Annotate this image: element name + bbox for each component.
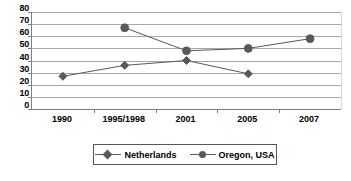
y-tickmark [28, 61, 32, 62]
legend-item[interactable]: Netherlands [95, 150, 176, 160]
diamond-marker-icon [59, 72, 67, 80]
y-tick-label: 80 [4, 4, 29, 13]
circle-marker-icon [306, 35, 314, 43]
y-tickmark [28, 73, 32, 74]
legend-sample [190, 150, 216, 160]
series-line [125, 28, 310, 51]
series-line [63, 61, 248, 77]
x-tickmark [94, 109, 95, 113]
y-tickmark [28, 36, 32, 37]
circle-marker-icon [183, 47, 191, 55]
y-tick-label: 50 [4, 40, 29, 49]
x-tickmark [217, 109, 218, 113]
diamond-marker-icon [183, 57, 191, 65]
y-tick-label: 60 [4, 28, 29, 37]
y-tickmark [28, 85, 32, 86]
line-chart: 01020304050607080 19901995/1998200120052… [0, 0, 351, 181]
y-tick-label: 30 [4, 65, 29, 74]
legend-label: Oregon, USA [219, 150, 275, 160]
caption-sliver [4, 171, 304, 181]
chart-legend: NetherlandsOregon, USA [93, 144, 277, 165]
x-tick-label: 1990 [52, 114, 72, 124]
y-tickmark [28, 24, 32, 25]
circle-marker-icon [244, 44, 252, 52]
y-tickmark [28, 12, 32, 13]
series-layer [32, 12, 341, 109]
y-axis: 01020304050607080 [4, 8, 29, 112]
x-axis: 19901995/1998200120052007 [31, 114, 341, 126]
plot-area [31, 12, 341, 110]
y-tickmark [28, 48, 32, 49]
diamond-marker-icon [244, 70, 252, 78]
y-tickmark [28, 97, 32, 98]
legend-item[interactable]: Oregon, USA [190, 150, 275, 160]
plot-right-edge [341, 12, 342, 109]
x-tickmark [156, 109, 157, 113]
circle-marker-icon [121, 24, 129, 32]
y-tick-label: 10 [4, 89, 29, 98]
y-tick-label: 40 [4, 53, 29, 62]
legend-sample [95, 150, 121, 160]
x-tick-label: 1995/1998 [102, 114, 145, 124]
x-tickmark [279, 109, 280, 113]
plot-wrapper: 01020304050607080 19901995/1998200120052… [0, 0, 351, 126]
x-tick-label: 2001 [175, 114, 195, 124]
legend-label: Netherlands [124, 150, 176, 160]
y-tick-label: 70 [4, 16, 29, 25]
y-tick-label: 0 [4, 101, 29, 110]
y-tick-label: 20 [4, 77, 29, 86]
diamond-marker-icon [103, 149, 113, 159]
y-tickmark [28, 109, 32, 110]
x-tick-label: 2005 [237, 114, 257, 124]
circle-marker-icon [199, 151, 206, 158]
diamond-marker-icon [121, 61, 129, 69]
x-tick-label: 2007 [299, 114, 319, 124]
